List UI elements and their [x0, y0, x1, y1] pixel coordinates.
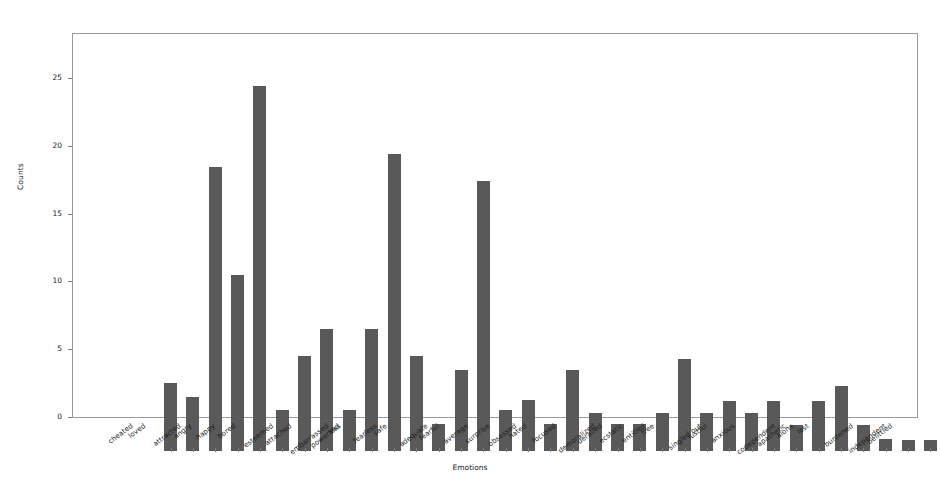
x-tick-mark	[595, 448, 596, 452]
x-tick-mark	[908, 448, 909, 452]
x-tick-mark	[841, 448, 842, 452]
bar	[611, 424, 624, 451]
x-tick-mark	[640, 448, 641, 452]
bar	[477, 181, 490, 451]
bar	[388, 154, 401, 451]
bar	[455, 370, 468, 451]
x-tick-mark	[327, 448, 328, 452]
x-tick-mark	[550, 448, 551, 452]
y-tick-label: 20	[52, 141, 62, 150]
x-tick-mark	[886, 448, 887, 452]
bar	[320, 329, 333, 451]
x-tick-mark	[528, 448, 529, 452]
x-tick-mark	[685, 448, 686, 452]
bar	[678, 359, 691, 451]
bar	[186, 397, 199, 451]
bar	[410, 356, 423, 451]
bar	[164, 383, 177, 451]
bar	[700, 413, 713, 451]
x-tick-mark	[774, 448, 775, 452]
x-tick-mark	[863, 448, 864, 452]
x-tick-mark	[461, 448, 462, 452]
bar-chart-figure: Counts 0510152025 cheatedlovedattracteda…	[0, 0, 940, 497]
x-tick-mark	[282, 448, 283, 452]
x-tick-mark	[260, 448, 261, 452]
bar	[231, 275, 244, 451]
bar	[589, 413, 602, 451]
x-tick-mark	[506, 448, 507, 452]
bar	[745, 413, 758, 451]
bar	[432, 424, 445, 451]
bar	[298, 356, 311, 451]
x-axis-label: Emotions	[0, 463, 940, 472]
bar	[656, 413, 669, 451]
x-tick-mark	[483, 448, 484, 452]
bar	[812, 401, 825, 451]
y-tick-label: 0	[57, 412, 62, 421]
bar	[767, 401, 780, 451]
x-tick-mark	[752, 448, 753, 452]
bar	[276, 410, 289, 451]
x-tick-mark	[729, 448, 730, 452]
x-tick-mark	[819, 448, 820, 452]
y-tick-label: 25	[52, 73, 62, 82]
bar	[209, 167, 222, 451]
bar	[343, 410, 356, 451]
x-tick-mark	[930, 448, 931, 452]
x-tick-label: cheated	[106, 422, 134, 446]
x-tick-mark	[439, 448, 440, 452]
x-tick-mark	[305, 448, 306, 452]
bar	[633, 424, 646, 451]
bar	[723, 401, 736, 451]
y-axis-label: Counts	[16, 163, 25, 190]
y-tick-label: 15	[52, 209, 62, 218]
x-tick-mark	[372, 448, 373, 452]
bar	[835, 386, 848, 451]
x-tick-mark	[707, 448, 708, 452]
bars-layer	[145, 67, 940, 451]
x-tick-mark	[618, 448, 619, 452]
bar	[253, 86, 266, 451]
bar	[544, 424, 557, 451]
x-tick-mark	[573, 448, 574, 452]
bar	[522, 400, 535, 451]
bar	[566, 370, 579, 451]
x-tick-mark	[349, 448, 350, 452]
x-tick-label: loved	[127, 422, 147, 440]
y-tick-label: 10	[52, 276, 62, 285]
y-tick-label: 5	[57, 344, 62, 353]
bar	[365, 329, 378, 451]
x-tick-mark	[796, 448, 797, 452]
x-tick-mark	[394, 448, 395, 452]
x-tick-mark	[215, 448, 216, 452]
plot-area	[72, 33, 918, 418]
x-tick-mark	[171, 448, 172, 452]
bar	[499, 410, 512, 451]
x-tick-mark	[238, 448, 239, 452]
x-tick-mark	[416, 448, 417, 452]
x-tick-mark	[193, 448, 194, 452]
x-tick-mark	[662, 448, 663, 452]
